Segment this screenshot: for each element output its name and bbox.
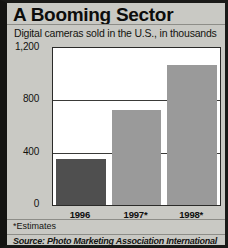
footer-divider-bottom [7, 234, 228, 235]
y-axis-label-0: 0 [34, 198, 39, 209]
y-axis-label-1200: 1,200 [15, 41, 39, 52]
bar-1997 [112, 110, 162, 206]
source-credit: Source: Photo Marketing Association Inte… [13, 236, 217, 246]
footer-divider-top [7, 219, 228, 220]
plot-area [52, 47, 221, 206]
bar-1996 [56, 159, 106, 205]
bar-group [53, 48, 220, 205]
chart-title: A Booming Sector [13, 4, 173, 26]
y-axis-label-800: 800 [23, 93, 39, 104]
chart-figure: A Booming Sector Digital cameras sold in… [0, 0, 228, 248]
title-divider [7, 24, 228, 25]
chart-subtitle: Digital cameras sold in the U.S., in tho… [14, 27, 217, 39]
footnote-estimates: *Estimates [13, 221, 56, 231]
bar-1998 [167, 65, 217, 205]
y-axis-label-400: 400 [23, 146, 39, 157]
